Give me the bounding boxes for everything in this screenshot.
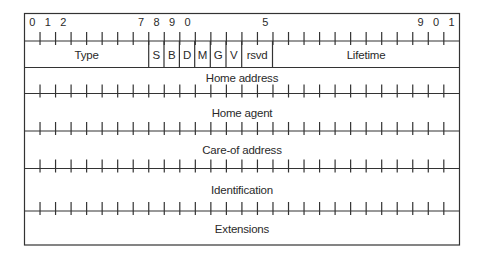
bit-label-30: 0 [433, 16, 439, 28]
field-b-flag: B [168, 49, 175, 61]
bit-label-8: 8 [154, 16, 160, 28]
field-rsvd: rsvd [247, 49, 268, 61]
bit-label-31: 1 [449, 16, 455, 28]
field-care-of-address: Care-of address [202, 144, 281, 156]
field-extensions: Extensions [215, 223, 269, 235]
field-m-flag: M [198, 49, 207, 61]
bit-label-29: 9 [418, 16, 424, 28]
bit-label-2: 2 [60, 16, 66, 28]
field-g-flag: G [214, 49, 223, 61]
bit-label-1: 1 [45, 16, 51, 28]
bit-label-15: 5 [262, 16, 268, 28]
field-d-flag: D [183, 49, 191, 61]
bit-label-0: 0 [29, 16, 35, 28]
bit-label-10: 0 [185, 16, 191, 28]
field-v-flag: V [230, 49, 237, 61]
field-home-address: Home address [206, 72, 278, 84]
field-s-flag: S [153, 49, 160, 61]
field-home-agent: Home agent [212, 107, 273, 119]
bit-label-9: 9 [169, 16, 175, 28]
bit-label-7: 7 [138, 16, 144, 28]
field-type: Type [75, 49, 99, 61]
field-identification: Identification [211, 184, 273, 196]
field-lifetime: Lifetime [347, 49, 386, 61]
